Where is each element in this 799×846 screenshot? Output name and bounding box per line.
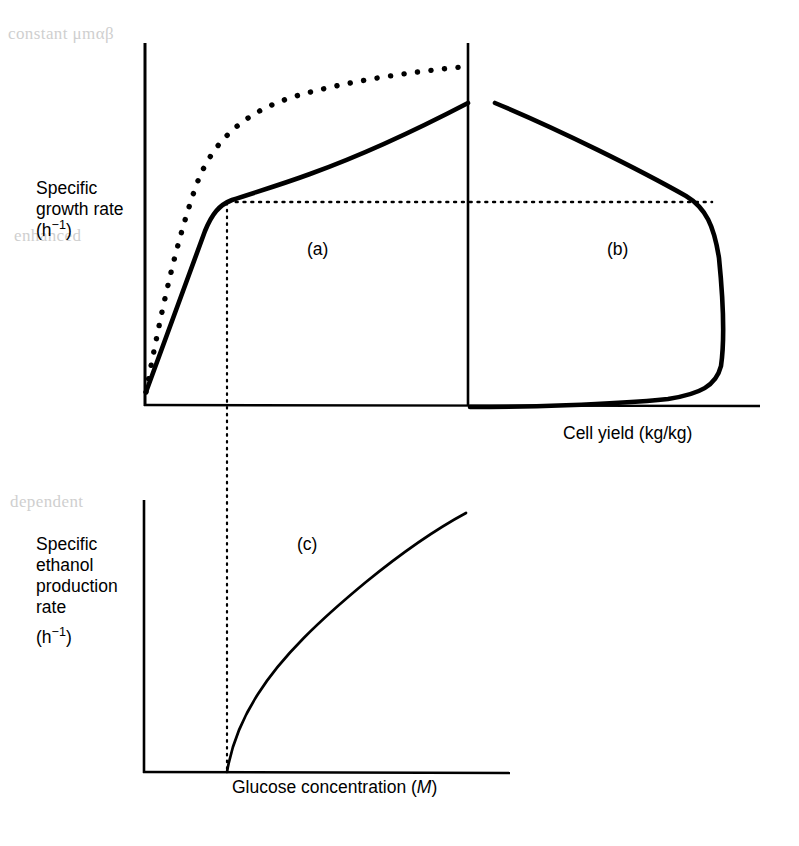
panel-c-y-axis-unit: (h−1) — [36, 627, 118, 648]
panel-c-y-axis-label-line2: ethanol — [36, 555, 93, 575]
panel-a-y-axis-label-line2: growth rate — [36, 199, 124, 219]
panel-c-tag: (c) — [297, 534, 317, 555]
panel-c-ethanol-curve — [227, 513, 466, 772]
panel-a-y-axis-label: Specific growth rate (h−1) — [36, 178, 124, 241]
panel-b-x-axis-label: Cell yield (kg/kg) — [563, 423, 692, 444]
panel-a-monod-dotted-curve — [146, 67, 462, 392]
panel-ab-x-axis — [144, 405, 760, 406]
panel-c-y-axis-label-line4: rate — [36, 597, 66, 617]
panel-a-tag: (a) — [307, 239, 328, 260]
panel-c-x-axis-label: Glucose concentration (M) — [232, 777, 437, 798]
panel-c-x-axis — [143, 772, 510, 773]
panel-c-x-axis-label-unit: M — [417, 777, 432, 797]
figure-container: constant μmαβ enhanced dependent Specifi… — [0, 0, 799, 846]
panel-a-y-axis-label-line1: Specific — [36, 178, 97, 198]
panel-b-cell-yield-curve — [470, 103, 723, 407]
panel-a-y-axis-unit: (h−1) — [36, 220, 72, 240]
panel-b-tag: (b) — [607, 239, 628, 260]
panel-c-y-axis-label-line1: Specific — [36, 534, 97, 554]
panel-c-y-axis-label: Specific ethanol production rate (h−1) — [36, 534, 118, 648]
panel-c-y-axis-label-line3: production — [36, 576, 118, 596]
